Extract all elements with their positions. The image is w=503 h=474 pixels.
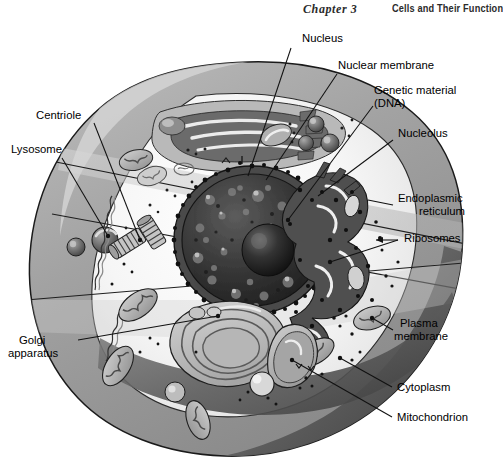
label-centriole: Centriole xyxy=(36,109,81,122)
secretory-vesicle xyxy=(250,372,274,396)
label-plasma-membrane-line2: membrane xyxy=(394,330,448,343)
label-lysosome: Lysosome xyxy=(11,143,62,156)
label-genetic-material-line2: (DNA) xyxy=(374,97,405,110)
label-nucleus: Nucleus xyxy=(302,32,343,45)
label-nucleolus: Nucleolus xyxy=(398,127,448,140)
label-golgi: Golgi xyxy=(19,334,45,347)
label-ribosomes: Ribosomes xyxy=(404,232,461,245)
label-endoplasmic-reticulum-line2: reticulum xyxy=(398,205,486,218)
label-nuclear-membrane: Nuclear membrane xyxy=(338,59,434,72)
label-plasma-membrane: Plasma xyxy=(400,317,438,330)
label-golgi-line2: apparatus xyxy=(8,347,58,360)
label-genetic-material: Genetic material xyxy=(374,84,456,97)
label-cytoplasm: Cytoplasm xyxy=(397,381,450,394)
label-mitochondrion: Mitochondrion xyxy=(397,411,468,424)
label-endoplasmic-reticulum: Endoplasmic xyxy=(398,192,463,205)
